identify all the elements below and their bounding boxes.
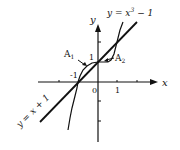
y-axis-label: y <box>89 14 96 25</box>
cubic-curve-label: y = x3 − 1 <box>106 6 153 18</box>
x-axis-label: x <box>162 77 168 88</box>
region-a1-label: A1 <box>63 49 74 60</box>
y-intercept-one-label: 1 <box>89 53 94 62</box>
y-axis <box>95 24 101 142</box>
line-curve-label: y = x + 1 <box>14 92 52 130</box>
line-curve <box>40 22 137 122</box>
x-intercept-neg-one-label: -1 <box>70 71 78 80</box>
x-tick-one-label: 1 <box>115 86 120 95</box>
region-a2-label: A2 <box>114 53 126 64</box>
graph-figure: y x 0 1 1 -1 A1 A2 y = x3 − 1 y = x + 1 <box>0 0 180 150</box>
y-axis-arrow-icon <box>95 24 101 32</box>
origin-label: 0 <box>92 86 97 95</box>
x-axis-arrow-icon <box>150 79 158 85</box>
